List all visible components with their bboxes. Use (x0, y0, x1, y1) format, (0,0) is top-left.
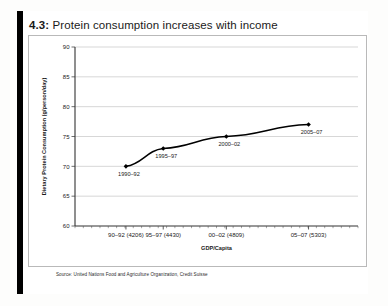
y-tick-label: 75 (63, 134, 70, 140)
figure-title-text: Protein consumption increases with incom… (53, 19, 278, 31)
y-axis: 60657075808590 (63, 44, 75, 229)
line-chart: 60657075808590 90–92 (4206)95–97 (4430)0… (28, 35, 367, 267)
data-point-marker (161, 146, 166, 151)
page-background: 4.3: Protein consumption increases with … (0, 0, 388, 306)
data-point-marker (306, 122, 311, 127)
x-tick-label: 00–02 (4809) (208, 232, 244, 238)
y-tick-label: 80 (63, 104, 70, 110)
data-point-marker (124, 164, 129, 169)
data-point-label: 2005–07 (301, 129, 323, 135)
figure-number: 4.3: (29, 19, 49, 31)
x-axis-title: GDP/Capita (201, 245, 233, 251)
x-tick-label: 05–07 (5303) (291, 232, 327, 238)
figure-card: 4.3: Protein consumption increases with … (17, 11, 368, 294)
y-tick-label: 90 (63, 44, 70, 50)
y-tick-label: 85 (63, 74, 70, 80)
data-point-marker (224, 134, 229, 139)
source-note: Source: United Nations Food and Agricult… (56, 272, 208, 277)
series-line (126, 125, 309, 167)
title-accent-bar (17, 11, 23, 294)
page-title: 4.3: Protein consumption increases with … (29, 19, 278, 31)
axis-titles: GDP/CapitaDietary Protein Consumption (g… (41, 78, 233, 251)
data-point-label: 1990–92 (118, 171, 140, 177)
data-point-label: 1995–97 (155, 153, 177, 159)
y-tick-label: 65 (63, 193, 70, 199)
y-axis-title: Dietary Protein Consumption (g/person/da… (41, 78, 47, 196)
x-tick-label: 90–92 (4206) (108, 232, 144, 238)
x-axis: 90–92 (4206)95–97 (4430)00–02 (4809)05–0… (75, 226, 358, 238)
data-series: 1990–921995–972000–022005–07 (118, 122, 322, 177)
x-tick-label: 95–97 (4430) (145, 232, 181, 238)
data-point-label: 2000–02 (218, 141, 240, 147)
y-tick-label: 70 (63, 164, 70, 170)
y-tick-label: 60 (63, 223, 70, 229)
figure-title-row: 4.3: Protein consumption increases with … (29, 15, 359, 35)
